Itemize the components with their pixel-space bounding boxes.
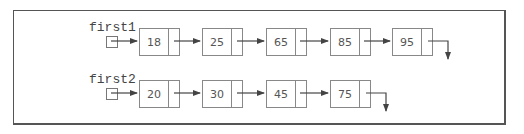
- null-arrow-icon: [428, 41, 448, 59]
- arrow-connectors: [0, 0, 524, 134]
- null-arrow-icon: [366, 93, 386, 111]
